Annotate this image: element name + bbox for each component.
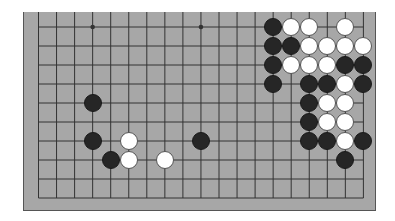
star-point-icon: [199, 25, 204, 30]
white-stone: [120, 151, 138, 169]
go-board[interactable]: [23, 12, 376, 211]
white-stone: [120, 132, 138, 150]
white-stone: [156, 151, 174, 169]
star-point-icon: [90, 25, 95, 30]
black-stone: [192, 132, 210, 150]
black-stone: [84, 94, 102, 112]
black-stone: [84, 132, 102, 150]
black-stone: [102, 151, 120, 169]
